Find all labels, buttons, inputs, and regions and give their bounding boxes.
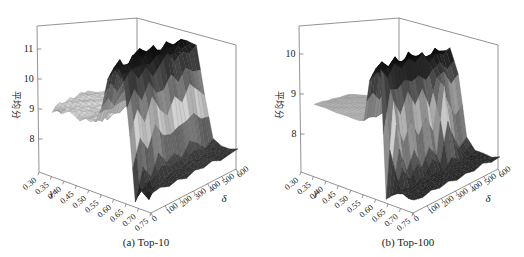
z-axis <box>37 26 39 172</box>
x-tick <box>100 195 101 198</box>
x-tick <box>112 199 113 202</box>
x-tick <box>75 186 76 189</box>
x-tick <box>337 186 338 189</box>
y-tick-label: 100 <box>164 200 180 216</box>
x-tick <box>50 177 51 180</box>
y-tick-label: 500 <box>482 171 498 187</box>
x-tick <box>362 195 363 198</box>
y-tick-label: 500 <box>220 171 236 187</box>
z-axis-label-a: 平均分 <box>11 91 22 120</box>
z-axis <box>299 26 301 172</box>
y-tick-label: 400 <box>468 178 484 194</box>
plot-top100: 89100.300.350.400.450.500.550.600.650.70… <box>274 18 513 249</box>
y-axis-label-b: δ <box>485 192 491 204</box>
z-axis-label-b: 平均分 <box>274 91 285 120</box>
x-tick <box>38 172 39 175</box>
z-tick-label: 8 <box>30 133 35 144</box>
caption-b: (b) Top-100 <box>382 236 435 249</box>
z-tick-label: 8 <box>291 128 296 139</box>
y-tick-label: 300 <box>192 186 208 202</box>
z-tick-label: 9 <box>29 103 34 114</box>
x-tick <box>350 190 351 193</box>
y-tick-label: 200 <box>440 193 456 209</box>
x-tick <box>300 172 301 175</box>
x-tick <box>125 204 126 207</box>
surface-mesh-b <box>314 48 500 200</box>
y-axis-label-a: δ <box>221 192 227 204</box>
y-tick-label: 400 <box>206 178 222 194</box>
box-top-left-edge <box>37 18 137 26</box>
x-tick <box>387 204 388 207</box>
caption-a: (a) Top-10 <box>123 236 170 249</box>
z-tick-label: 11 <box>24 43 34 54</box>
z-tick-label: 10 <box>24 73 34 84</box>
box-top-right-edge <box>399 18 498 45</box>
y-tick-label: 100 <box>426 200 442 216</box>
dual-surface-figure: 8910110.300.350.400.450.500.550.600.650.… <box>0 0 524 257</box>
x-tick <box>325 181 326 184</box>
surface-mesh-a <box>52 39 238 202</box>
x-tick <box>137 208 138 211</box>
z-tick-label: 10 <box>285 48 295 59</box>
box-top-left-edge <box>299 18 399 26</box>
y-tick-label: 600 <box>234 164 250 180</box>
x-axis-label-b: γ <box>314 186 319 198</box>
figure-container: 8910110.300.350.400.450.500.550.600.650.… <box>0 0 524 257</box>
x-tick <box>399 208 400 211</box>
y-tick-label: 0 <box>411 213 421 223</box>
x-tick <box>312 177 313 180</box>
z-tick-label: 9 <box>291 88 296 99</box>
x-axis-label-a: γ <box>50 186 55 198</box>
x-tick <box>88 190 89 193</box>
plot-top10: 8910110.300.350.400.450.500.550.600.650.… <box>11 18 251 249</box>
y-tick-label: 300 <box>454 186 470 202</box>
y-tick-label: 600 <box>496 164 512 180</box>
y-tick-label: 0 <box>149 213 159 223</box>
x-tick <box>63 181 64 184</box>
x-tick <box>374 199 375 202</box>
y-tick-label: 200 <box>178 193 194 209</box>
